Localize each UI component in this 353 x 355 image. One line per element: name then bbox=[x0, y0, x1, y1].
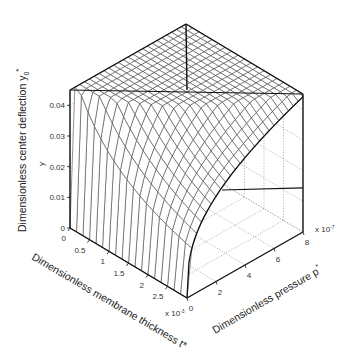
z-tick-label: 0.02 bbox=[49, 163, 65, 172]
z-tick-label: 0 bbox=[61, 224, 66, 233]
z-tick-label: 0.03 bbox=[49, 132, 65, 141]
y-axis-title: Dimensionless pressure p* bbox=[210, 263, 324, 336]
x-tick-label: 2 bbox=[140, 281, 145, 290]
z-tick-label: 0.04 bbox=[49, 101, 65, 110]
x-tick-label: 0.5 bbox=[74, 246, 86, 255]
z-inner-label: y bbox=[37, 162, 46, 166]
z-axis-title: Dimensionless center deflection y0* bbox=[14, 69, 30, 232]
chart-container: 00.010.020.030.0400.511.522.502468 Dimen… bbox=[0, 0, 353, 355]
y-tick-label: 8 bbox=[305, 238, 310, 247]
x-tick-label: 1.5 bbox=[113, 269, 125, 278]
y-tick-label: 4 bbox=[247, 271, 252, 280]
y-tick-label: 6 bbox=[276, 255, 281, 264]
z-tick-label: 0.01 bbox=[49, 193, 65, 202]
x-tick-label: 2.5 bbox=[152, 292, 164, 301]
y-multiplier: x 10-7 bbox=[315, 224, 335, 234]
surface-plot: 00.010.020.030.0400.511.522.502468 Dimen… bbox=[0, 0, 353, 355]
y-tick-label: 2 bbox=[218, 288, 223, 297]
x-tick-label: 0 bbox=[62, 234, 67, 243]
x-multiplier: x 10-3 bbox=[165, 308, 185, 318]
y-tick-label: 0 bbox=[189, 304, 194, 313]
x-tick-label: 1 bbox=[101, 257, 106, 266]
